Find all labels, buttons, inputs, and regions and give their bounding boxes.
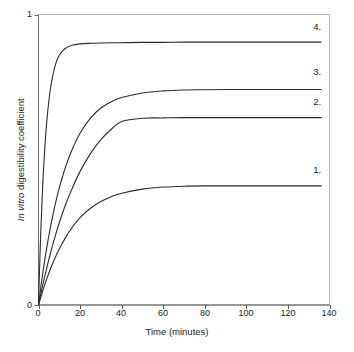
- series-line-4: [39, 42, 322, 305]
- x-axis-title: Time (minutes): [0, 327, 354, 337]
- plot-frame: [39, 15, 330, 306]
- series-label-1: 1.: [313, 165, 321, 175]
- series-line-1: [39, 186, 322, 305]
- x-tick-label-80: 80: [200, 309, 210, 318]
- x-tick-label-0: 0: [35, 309, 40, 318]
- y-tick-label-0: 0: [18, 301, 32, 310]
- series-label-4: 4.: [313, 22, 321, 32]
- x-tick-label-140: 140: [321, 309, 336, 318]
- line-chart-plot: [0, 0, 354, 352]
- x-tick-label-40: 40: [116, 309, 126, 318]
- x-tick-label-100: 100: [238, 309, 253, 318]
- series-line-2: [39, 118, 322, 305]
- y-axis-ticks: [35, 16, 39, 306]
- series-line-3: [39, 89, 322, 305]
- y-axis-title: In vitro digestibility coefficient: [16, 60, 26, 260]
- y-tick-label-1: 1: [18, 10, 32, 19]
- data-series-group: [39, 42, 322, 305]
- y-axis-title-italic: In vitro: [15, 193, 26, 222]
- x-tick-label-20: 20: [75, 309, 85, 318]
- chart-figure: 1 0 0 20 40 60 80 100 120 140 Time (minu…: [0, 0, 354, 352]
- x-tick-label-120: 120: [280, 309, 295, 318]
- series-label-3: 3.: [313, 67, 321, 77]
- series-label-2: 2.: [313, 97, 321, 107]
- x-tick-label-60: 60: [158, 309, 168, 318]
- y-axis-title-rest: digestibility coefficient: [15, 98, 26, 192]
